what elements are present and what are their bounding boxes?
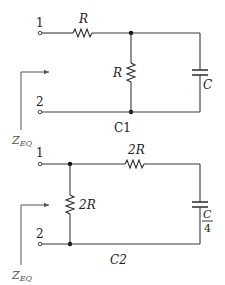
series-resistor-label-c1: R: [78, 12, 88, 26]
impedance-arrow-c2: [21, 205, 49, 265]
series-resistor-label-c2: 2R: [127, 143, 145, 157]
shunt-resistor-label-c1: R: [112, 66, 122, 80]
shunt-resistor-c2: [66, 195, 74, 214]
terminal-2-c1: [38, 110, 42, 114]
terminal-1-label-c1: 1: [36, 16, 44, 30]
circuit-caption-c1: C1: [114, 121, 131, 135]
circuit-diagrams: 1 R R C 2 C1 ZEQ 1 2R: [0, 0, 225, 285]
impedance-label-c2: ZEQ: [11, 269, 32, 283]
circuit-c1: 1 R R C 2 C1 ZEQ: [11, 12, 212, 148]
series-resistor-c1: [73, 29, 92, 37]
terminal-2-label-c2: 2: [36, 227, 44, 241]
shunt-resistor-c1: [127, 63, 135, 82]
terminal-2-c2: [38, 242, 42, 246]
capacitor-numerator: C: [203, 208, 212, 221]
capacitor-label-c2: C 4: [202, 208, 213, 235]
terminal-1-c2: [38, 162, 42, 166]
series-resistor-c2: [125, 160, 144, 168]
impedance-label-c1: ZEQ: [11, 134, 32, 148]
capacitor-denominator: 4: [204, 222, 211, 235]
capacitor-label-c1: C: [203, 78, 212, 92]
impedance-arrow-c1: [21, 72, 49, 130]
shunt-resistor-label-c2: 2R: [78, 198, 96, 212]
terminal-1-c1: [38, 31, 42, 35]
circuit-c2: 1 2R 2R C 4 2 C2 ZEQ: [11, 143, 213, 283]
circuit-caption-c2: C2: [110, 253, 127, 267]
terminal-2-label-c1: 2: [36, 95, 44, 109]
terminal-1-label-c2: 1: [36, 146, 44, 160]
